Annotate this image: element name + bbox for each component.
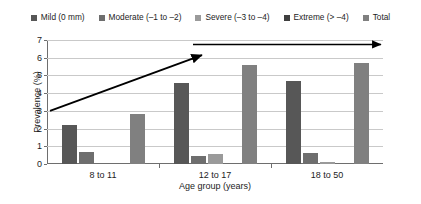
plot-area: 01234567 8 to 1112 to 1718 to 50 bbox=[47, 40, 383, 164]
chart-legend: Mild (0 mm) Moderate (–1 to –2) Severe (… bbox=[0, 13, 421, 22]
legend-item-moderate[interactable]: Moderate (–1 to –2) bbox=[99, 13, 182, 22]
x-axis-title: Age group (years) bbox=[47, 181, 383, 191]
legend-label-severe: Severe (–3 to –4) bbox=[205, 13, 269, 22]
legend-swatch-severe bbox=[195, 15, 201, 21]
bar-total-1 bbox=[242, 65, 257, 164]
bar-mild-1 bbox=[174, 83, 189, 164]
y-tick-label: 5 bbox=[22, 71, 42, 80]
bar-moderate-2 bbox=[303, 153, 318, 164]
y-tick-label: 0 bbox=[22, 160, 42, 169]
legend-swatch-mild bbox=[31, 15, 37, 21]
bar-mild-2 bbox=[286, 81, 301, 164]
legend-label-mild: Mild (0 mm) bbox=[41, 13, 85, 22]
y-tick-label: 7 bbox=[22, 36, 42, 45]
bar-group: 12 to 17 bbox=[159, 40, 271, 164]
legend-item-severe[interactable]: Severe (–3 to –4) bbox=[195, 13, 269, 22]
chart-figure: Mild (0 mm) Moderate (–1 to –2) Severe (… bbox=[0, 0, 421, 204]
legend-item-total[interactable]: Total bbox=[363, 13, 391, 22]
legend-item-mild[interactable]: Mild (0 mm) bbox=[31, 13, 85, 22]
x-tick-label: 18 to 50 bbox=[271, 170, 383, 180]
bar-total-2 bbox=[354, 63, 369, 164]
y-tick-label: 2 bbox=[22, 124, 42, 133]
y-tick-label: 6 bbox=[22, 53, 42, 62]
x-tick-label: 8 to 11 bbox=[47, 170, 159, 180]
bar-total-0 bbox=[130, 114, 145, 164]
bar-moderate-1 bbox=[191, 156, 206, 164]
legend-label-moderate: Moderate (–1 to –2) bbox=[109, 13, 182, 22]
bar-moderate-0 bbox=[79, 152, 94, 164]
bar-group: 18 to 50 bbox=[271, 40, 383, 164]
legend-label-extreme: Extreme (> –4) bbox=[294, 13, 349, 22]
legend-swatch-moderate bbox=[99, 15, 105, 21]
bar-group: 8 to 11 bbox=[47, 40, 159, 164]
legend-item-extreme[interactable]: Extreme (> –4) bbox=[284, 13, 349, 22]
y-tick-mark bbox=[44, 164, 47, 165]
legend-swatch-extreme bbox=[284, 15, 290, 21]
bar-mild-0 bbox=[62, 125, 77, 164]
y-tick-label: 4 bbox=[22, 89, 42, 98]
legend-swatch-total bbox=[363, 15, 369, 21]
bar-severe-1 bbox=[208, 154, 223, 164]
legend-label-total: Total bbox=[373, 13, 391, 22]
bar-groups: 8 to 1112 to 1718 to 50 bbox=[47, 40, 383, 164]
y-tick-label: 3 bbox=[22, 106, 42, 115]
y-tick-label: 1 bbox=[22, 142, 42, 151]
x-tick-label: 12 to 17 bbox=[159, 170, 271, 180]
bar-severe-2 bbox=[320, 162, 335, 164]
